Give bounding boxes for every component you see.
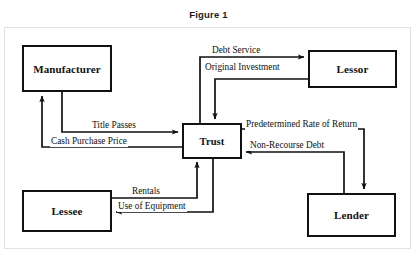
- edge-line-predetermined-rate-of-return: [242, 129, 364, 189]
- edge-label-use-of-equipment: Use of Equipment: [117, 201, 187, 212]
- node-lessee[interactable]: Lessee: [22, 190, 112, 232]
- edge-label-rentals: Rentals: [131, 186, 161, 197]
- node-lessor[interactable]: Lessor: [308, 50, 397, 88]
- edge-label-non-recourse-debt: Non-Recourse Debt: [249, 140, 325, 151]
- edge-line-original-investment: [215, 79, 308, 119]
- edge-label-original-investment: Original Investment: [204, 62, 281, 73]
- edge-label-predetermined-rate-of-return: Predetermined Rate of Return: [245, 119, 358, 130]
- figure-container: Figure 1 Manufac: [0, 0, 417, 256]
- node-lender-label: Lender: [334, 209, 369, 221]
- node-trust[interactable]: Trust: [182, 123, 242, 159]
- node-lender[interactable]: Lender: [307, 193, 396, 237]
- edge-label-cash-purchase-price: Cash Purchase Price: [50, 136, 128, 147]
- node-trust-label: Trust: [200, 136, 225, 147]
- edge-label-title-passes: Title Passes: [91, 120, 137, 131]
- edge-line-non-recourse-debt: [246, 152, 344, 193]
- node-lessee-label: Lessee: [51, 205, 82, 217]
- edge-label-debt-service: Debt Service: [211, 45, 261, 56]
- node-manufacturer-label: Manufacturer: [33, 63, 101, 75]
- node-manufacturer[interactable]: Manufacturer: [22, 45, 112, 92]
- node-lessor-label: Lessor: [337, 63, 369, 75]
